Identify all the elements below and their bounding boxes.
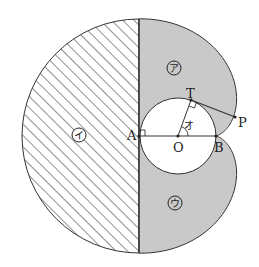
point-o bbox=[176, 134, 179, 137]
point-b bbox=[214, 134, 217, 137]
geometry-diagram: A O B T P オ ア イ ウ bbox=[0, 0, 259, 267]
label-t: T bbox=[186, 86, 195, 101]
label-o: O bbox=[173, 140, 184, 155]
region-label-a: ア bbox=[167, 61, 181, 75]
region-label-i: イ bbox=[72, 128, 86, 142]
svg-text:ウ: ウ bbox=[170, 198, 180, 209]
svg-text:ア: ア bbox=[169, 63, 179, 74]
svg-text:イ: イ bbox=[74, 130, 84, 141]
point-p bbox=[233, 115, 236, 118]
label-b: B bbox=[214, 140, 224, 155]
point-a bbox=[137, 134, 140, 137]
label-p: P bbox=[238, 115, 247, 130]
region-label-u: ウ bbox=[168, 196, 182, 210]
angle-label-o: オ bbox=[184, 120, 194, 131]
label-a: A bbox=[126, 128, 137, 143]
